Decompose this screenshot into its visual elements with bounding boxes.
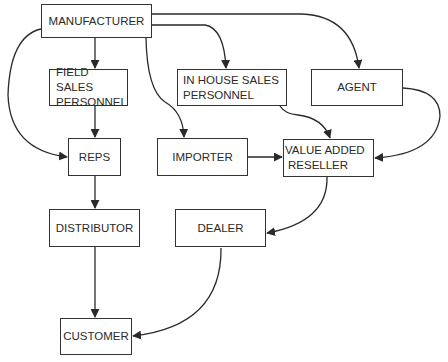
node-label-line1: VALUE ADDED (285, 143, 365, 158)
edge-in-house-sales-to-var (280, 106, 330, 138)
node-dealer: DEALER (175, 209, 266, 247)
node-label: REPS (79, 150, 110, 165)
node-importer: IMPORTER (157, 138, 248, 176)
node-label-line2: PERSONNEL (183, 88, 279, 103)
node-reps: REPS (68, 138, 121, 176)
node-agent: AGENT (311, 69, 403, 106)
edges-layer (0, 0, 448, 362)
edge-dealer-to-customer (133, 248, 221, 336)
node-in-house-sales-personnel: IN HOUSE SALES PERSONNEL (177, 69, 287, 106)
edge-manufacturer-to-agent (152, 14, 359, 68)
node-label: AGENT (337, 80, 377, 95)
node-label: CUSTOMER (63, 329, 129, 344)
node-distributor: DISTRIBUTOR (49, 209, 140, 247)
node-label: DEALER (197, 221, 243, 236)
node-label-line1: FIELD SALES (56, 65, 127, 95)
edge-var-to-dealer (267, 177, 327, 233)
edge-manufacturer-to-in-house-sales (152, 25, 226, 68)
node-label-line2: RESELLER (285, 158, 365, 173)
node-manufacturer: MANUFACTURER (41, 4, 152, 38)
node-label: MANUFACTURER (49, 14, 145, 29)
node-label: DISTRIBUTOR (56, 221, 134, 236)
node-label-line2: PERSONNEL (56, 95, 127, 110)
node-customer: CUSTOMER (60, 318, 132, 355)
node-label: IMPORTER (172, 150, 233, 165)
distribution-channel-diagram: MANUFACTURER FIELD SALES PERSONNEL IN HO… (0, 0, 448, 362)
node-value-added-reseller: VALUE ADDED RESELLER (283, 139, 374, 177)
node-field-sales-personnel: FIELD SALES PERSONNEL (49, 69, 128, 106)
node-label-line1: IN HOUSE SALES (183, 73, 279, 88)
